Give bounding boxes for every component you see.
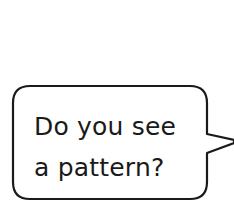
speech-line-2: a pattern? — [34, 147, 176, 188]
speech-line-1: Do you see — [34, 106, 176, 147]
speech-bubble-text: Do you see a pattern? — [34, 106, 176, 188]
canvas: Do you see a pattern? — [0, 0, 234, 222]
